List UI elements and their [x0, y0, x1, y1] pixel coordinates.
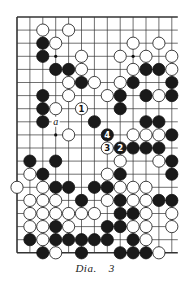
black-stone — [37, 168, 49, 180]
white-stone — [50, 207, 62, 219]
white-stone — [75, 50, 87, 62]
white-stone — [37, 221, 49, 233]
black-stone — [166, 90, 178, 102]
black-stone — [88, 181, 100, 193]
white-stone — [140, 207, 152, 219]
black-stone — [114, 247, 126, 259]
white-stone — [50, 37, 62, 49]
black-stone — [127, 76, 139, 88]
black-stone — [75, 234, 87, 246]
white-stone — [50, 194, 62, 206]
white-stone — [24, 168, 36, 180]
white-stone — [101, 168, 113, 180]
markers-layer: a — [52, 116, 60, 127]
white-stone — [101, 194, 113, 206]
black-stone — [37, 247, 49, 259]
white-stone — [63, 76, 75, 88]
black-stone — [153, 142, 165, 154]
go-board-diagram: 1432 a — [0, 0, 190, 262]
white-stone — [63, 129, 75, 141]
white-stone: 3 — [101, 142, 113, 154]
black-stone — [88, 234, 100, 246]
black-stone — [101, 181, 113, 193]
black-stone — [153, 63, 165, 75]
white-stone — [37, 234, 49, 246]
star-point — [54, 133, 57, 136]
black-stone — [75, 247, 87, 259]
black-stone — [127, 142, 139, 154]
white-stone — [127, 129, 139, 141]
white-stone — [140, 194, 152, 206]
white-stone — [24, 221, 36, 233]
diagram-caption: Dia.3 — [0, 262, 190, 274]
white-stone — [63, 90, 75, 102]
white-stone — [63, 24, 75, 36]
black-stone — [166, 76, 178, 88]
white-stone — [88, 76, 100, 88]
white-stone — [166, 50, 178, 62]
white-stone — [140, 129, 152, 141]
black-stone — [166, 194, 178, 206]
white-stone — [140, 50, 152, 62]
black-stone — [101, 234, 113, 246]
white-stone — [63, 221, 75, 233]
caption-label: Dia. — [75, 262, 96, 274]
white-stone — [101, 90, 113, 102]
white-stone — [127, 194, 139, 206]
white-stone — [153, 90, 165, 102]
black-stone — [114, 194, 126, 206]
move-number-label: 3 — [104, 143, 110, 153]
star-point — [132, 55, 135, 58]
white-stone — [166, 207, 178, 219]
black-stone — [24, 155, 36, 167]
move-number-label: 4 — [104, 130, 110, 140]
black-stone — [127, 247, 139, 259]
white-stone — [166, 63, 178, 75]
black-stone — [37, 37, 49, 49]
white-stone — [153, 129, 165, 141]
white-stone — [114, 155, 126, 167]
white-stone: 1 — [75, 103, 87, 115]
black-stone — [127, 207, 139, 219]
white-stone — [50, 103, 62, 115]
black-stone — [153, 194, 165, 206]
black-stone — [140, 116, 152, 128]
white-stone — [24, 194, 36, 206]
black-stone — [127, 234, 139, 246]
black-stone — [166, 129, 178, 141]
black-stone — [75, 76, 87, 88]
black-stone — [140, 247, 152, 259]
white-stone — [50, 247, 62, 259]
white-stone — [127, 63, 139, 75]
black-stone — [50, 63, 62, 75]
black-stone — [50, 234, 62, 246]
white-stone — [114, 50, 126, 62]
black-stone — [140, 142, 152, 154]
black-stone — [37, 90, 49, 102]
white-stone — [75, 207, 87, 219]
white-stone — [140, 181, 152, 193]
black-stone — [114, 90, 126, 102]
white-stone — [114, 76, 126, 88]
white-stone — [24, 207, 36, 219]
black-stone: 4 — [101, 129, 113, 141]
black-stone — [63, 234, 75, 246]
black-stone — [63, 181, 75, 193]
black-stone: 2 — [114, 142, 126, 154]
white-stone — [37, 181, 49, 193]
white-stone — [11, 181, 23, 193]
white-stone — [63, 207, 75, 219]
move-number-label: 1 — [79, 104, 85, 114]
white-stone — [153, 155, 165, 167]
black-stone — [50, 181, 62, 193]
black-stone — [114, 221, 126, 233]
white-stone — [166, 221, 178, 233]
black-stone — [166, 168, 178, 180]
black-stone — [50, 221, 62, 233]
black-stone — [140, 63, 152, 75]
black-stone — [37, 50, 49, 62]
black-stone — [101, 221, 113, 233]
move-number-label: 2 — [117, 143, 123, 153]
white-stone — [153, 37, 165, 49]
black-stone — [24, 234, 36, 246]
